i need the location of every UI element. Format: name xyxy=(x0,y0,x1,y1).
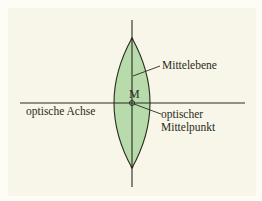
mittelebene-label: Mittelebene xyxy=(162,59,217,71)
center-m-label: M xyxy=(129,88,140,100)
lens-top-vertex xyxy=(131,38,134,41)
lens-bottom-vertex xyxy=(131,166,134,169)
optical-center-label-line1: optischer xyxy=(161,108,215,121)
optical-axis-label: optische Achse xyxy=(26,105,95,117)
optical-center-label: optischer Mittelpunkt xyxy=(161,108,215,134)
optical-center-label-line2: Mittelpunkt xyxy=(161,121,215,134)
